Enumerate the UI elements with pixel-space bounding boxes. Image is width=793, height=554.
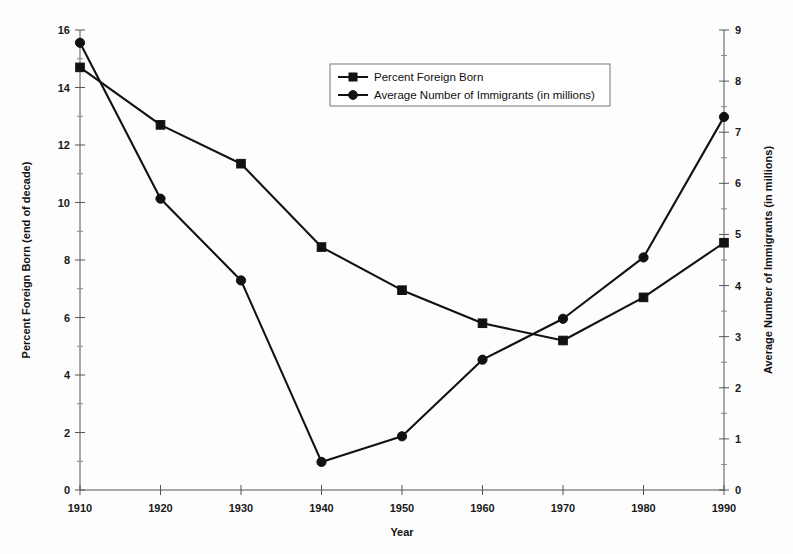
- left-tick-label: 4: [64, 369, 71, 381]
- data-point-marker: [76, 63, 85, 72]
- data-point-marker: [639, 293, 648, 302]
- right-axis-title: Average Number of Immigrants (in million…: [762, 146, 774, 375]
- left-tick-label: 16: [58, 24, 70, 36]
- data-point-marker: [75, 38, 84, 47]
- right-axis-ticks: 0123456789: [719, 24, 742, 496]
- x-axis-ticks: 191019201930194019501960197019801990: [68, 485, 736, 514]
- data-point-marker: [639, 253, 648, 262]
- series-line-0: [80, 67, 724, 340]
- right-tick-label: 9: [735, 24, 741, 36]
- left-tick-label: 12: [58, 139, 70, 151]
- left-tick-label: 2: [64, 427, 70, 439]
- legend-circle-marker: [349, 91, 358, 100]
- right-tick-label: 5: [735, 228, 741, 240]
- x-tick-label: 1970: [551, 502, 575, 514]
- data-point-marker: [719, 112, 728, 121]
- right-tick-label: 3: [735, 331, 741, 343]
- right-tick-label: 8: [735, 75, 741, 87]
- line-chart: 0246810121416 0123456789 191019201930194…: [0, 0, 793, 554]
- left-axis-ticks: 0246810121416: [58, 24, 85, 496]
- data-point-marker: [156, 194, 165, 203]
- left-tick-label: 6: [64, 312, 70, 324]
- data-point-marker: [236, 276, 245, 285]
- x-axis-title: Year: [390, 526, 414, 538]
- right-tick-label: 6: [735, 177, 741, 189]
- left-tick-label: 14: [58, 82, 71, 94]
- x-tick-label: 1940: [309, 502, 333, 514]
- x-tick-label: 1960: [470, 502, 494, 514]
- data-point-marker: [156, 121, 165, 130]
- x-tick-label: 1920: [148, 502, 172, 514]
- legend-label-average-immigrants: Average Number of Immigrants (in million…: [374, 89, 595, 101]
- data-point-marker: [317, 243, 326, 252]
- chart-legend: Percent Foreign Born Average Number of I…: [330, 64, 610, 106]
- legend-square-marker: [349, 73, 357, 81]
- right-tick-label: 0: [735, 484, 741, 496]
- x-tick-label: 1910: [68, 502, 92, 514]
- data-point-marker: [237, 159, 246, 168]
- data-point-marker: [398, 286, 407, 295]
- data-point-marker: [478, 319, 487, 328]
- data-point-marker: [558, 314, 567, 323]
- left-axis-title: Percent Foreign Born (end of decade): [20, 161, 32, 358]
- left-tick-label: 0: [64, 484, 70, 496]
- right-tick-label: 2: [735, 382, 741, 394]
- data-point-marker: [478, 355, 487, 364]
- x-tick-label: 1930: [229, 502, 253, 514]
- right-tick-label: 4: [735, 280, 742, 292]
- chart-figure: 0246810121416 0123456789 191019201930194…: [0, 0, 793, 554]
- left-tick-label: 10: [58, 197, 70, 209]
- data-point-marker: [317, 457, 326, 466]
- x-tick-label: 1990: [712, 502, 736, 514]
- legend-label-percent-foreign-born: Percent Foreign Born: [374, 71, 483, 83]
- data-point-marker: [559, 336, 568, 345]
- data-point-marker: [720, 238, 729, 247]
- right-tick-label: 7: [735, 126, 741, 138]
- right-tick-label: 1: [735, 433, 741, 445]
- data-point-marker: [397, 432, 406, 441]
- left-tick-label: 8: [64, 254, 70, 266]
- x-tick-label: 1950: [390, 502, 414, 514]
- x-tick-label: 1980: [631, 502, 655, 514]
